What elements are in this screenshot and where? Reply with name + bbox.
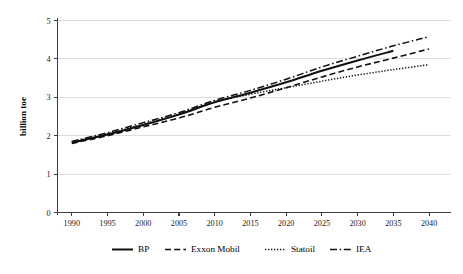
series-line-bp	[72, 51, 394, 143]
chart-container: 012345 199019952000200520102015202020252…	[0, 0, 463, 274]
x-tick-label: 2005	[171, 219, 187, 228]
x-tick-label: 1995	[99, 219, 115, 228]
legend-label-bp: BP	[138, 244, 149, 254]
line-chart: 012345 199019952000200520102015202020252…	[0, 0, 463, 274]
y-tick-label: 4	[46, 55, 50, 64]
data-series	[72, 37, 429, 144]
y-tick-label: 2	[46, 132, 50, 141]
x-axis: 1990199520002005201020152020202520302035…	[56, 213, 451, 228]
legend-label-exxon-mobil: Exxon Mobil	[191, 244, 240, 254]
x-tick-label: 2040	[421, 219, 437, 228]
y-axis-title-text: billion toe	[18, 97, 28, 136]
series-line-iea	[72, 37, 429, 142]
x-tick-label: 2025	[314, 219, 330, 228]
y-tick-label: 5	[46, 17, 50, 26]
y-tick-label: 1	[46, 170, 50, 179]
x-tick-label: 2035	[385, 219, 401, 228]
x-tick-label: 2015	[242, 219, 258, 228]
x-tick-label: 2020	[278, 219, 294, 228]
chart-legend: BPExxon MobilStatoilIEA	[112, 244, 372, 254]
y-axis: 012345	[46, 17, 57, 218]
y-tick-label: 3	[46, 93, 50, 102]
y-axis-title: billion toe	[18, 97, 28, 136]
y-tick-label: 0	[46, 209, 50, 218]
x-tick-label: 1990	[64, 219, 80, 228]
x-tick-label: 2000	[135, 219, 151, 228]
x-tick-label: 2030	[349, 219, 365, 228]
x-tick-label: 2010	[207, 219, 223, 228]
legend-label-iea: IEA	[356, 244, 372, 254]
legend-label-statoil: Statoil	[291, 244, 315, 254]
